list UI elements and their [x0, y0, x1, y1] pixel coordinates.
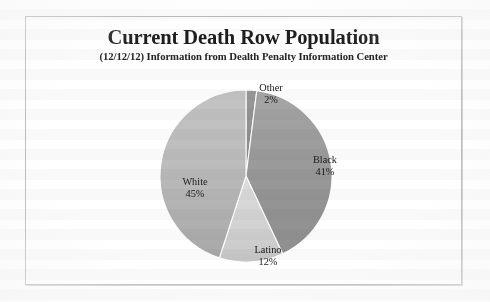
pie-label-other-value: 2%: [230, 94, 312, 106]
pie-label-black: Black 41%: [294, 154, 356, 179]
pie-label-latino-value: 12%: [232, 256, 304, 268]
scanned-page: Current Death Row Population (12/12/12) …: [0, 0, 490, 302]
pie-label-black-name: Black: [294, 154, 356, 166]
pie-label-other: Other 2%: [230, 82, 312, 107]
pie-label-white: White 45%: [164, 176, 226, 201]
pie-label-black-value: 41%: [294, 166, 356, 178]
pie-label-white-value: 45%: [164, 188, 226, 200]
pie-label-other-name: Other: [230, 82, 312, 94]
pie-label-latino-name: Latino: [232, 244, 304, 256]
pie-chart: Other 2% Black 41% White 45% Latino 12%: [25, 16, 462, 285]
pie-label-latino: Latino 12%: [232, 244, 304, 269]
pie-label-white-name: White: [164, 176, 226, 188]
